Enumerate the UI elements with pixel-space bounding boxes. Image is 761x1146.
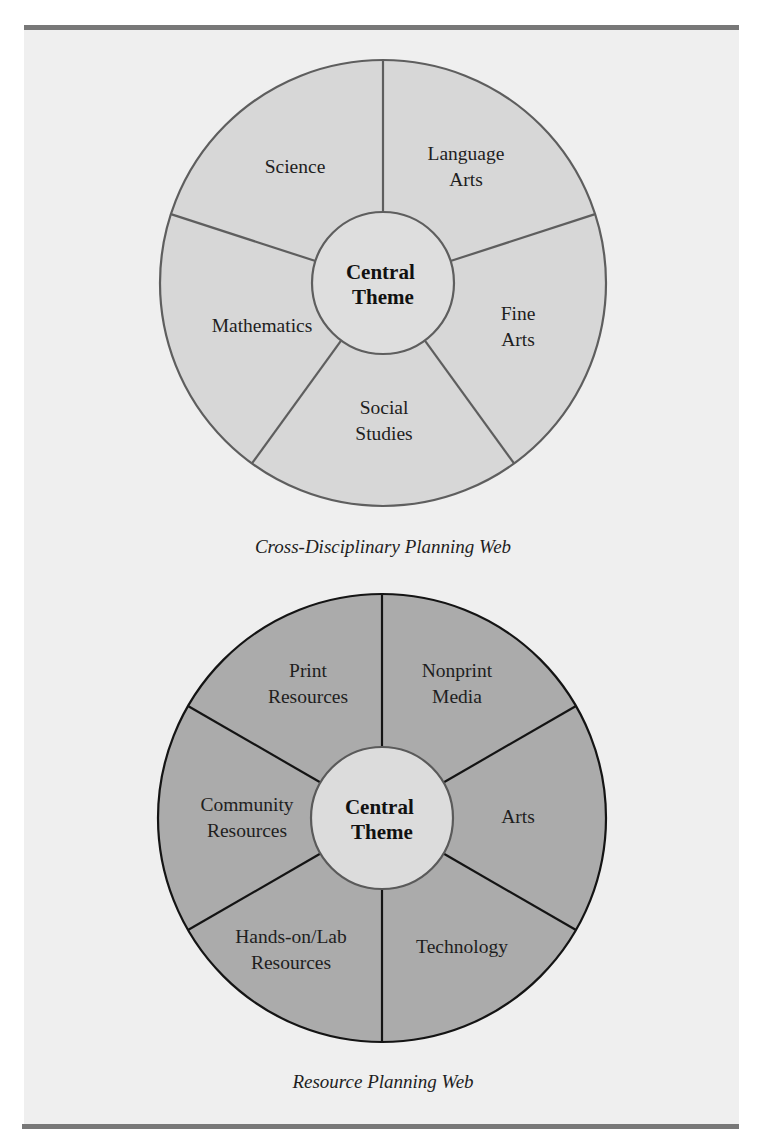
segment-label-line: Arts	[501, 329, 535, 350]
segment-label-line: Social	[360, 397, 409, 418]
segment-label-line: Resources	[207, 820, 287, 841]
segment-label-line: Arts	[449, 169, 483, 190]
figure-caption: Cross-Disciplinary Planning Web	[255, 536, 511, 557]
segment-label-line: Studies	[355, 423, 412, 444]
central-theme-line-2: Theme	[351, 820, 413, 844]
segment-label-line: Science	[265, 156, 326, 177]
segment-label-line: Community	[200, 794, 293, 815]
figure-page: Central Theme ScienceLanguageArtsFineArt…	[0, 0, 761, 1146]
top-rule	[24, 25, 739, 30]
central-theme-line-1: Central	[346, 260, 415, 284]
segment-label-line: Nonprint	[422, 660, 493, 681]
segment-label-line: Print	[289, 660, 328, 681]
segment-label: Mathematics	[212, 315, 313, 336]
segment-label-line: Resources	[268, 686, 348, 707]
figure-caption: Resource Planning Web	[291, 1071, 473, 1092]
segment-label: Science	[265, 156, 326, 177]
segment-label-line: Fine	[501, 303, 536, 324]
segment-label-line: Language	[428, 143, 505, 164]
segment-label: Arts	[501, 806, 535, 827]
central-theme-line-2: Theme	[352, 285, 414, 309]
segment-label-line: Hands-on/Lab	[235, 926, 347, 947]
bottom-rule	[22, 1124, 739, 1129]
central-theme-label: Central Theme	[346, 260, 420, 309]
segment-label-line: Technology	[416, 936, 508, 957]
segment-label-line: Mathematics	[212, 315, 313, 336]
planning-webs-figure: Central Theme ScienceLanguageArtsFineArt…	[0, 0, 761, 1146]
segment-label: Technology	[416, 936, 508, 957]
central-theme-line-1: Central	[345, 795, 414, 819]
segment-label-line: Resources	[251, 952, 331, 973]
segment-label-line: Arts	[501, 806, 535, 827]
central-theme-label: Central Theme	[345, 795, 419, 844]
segment-label-line: Media	[432, 686, 482, 707]
